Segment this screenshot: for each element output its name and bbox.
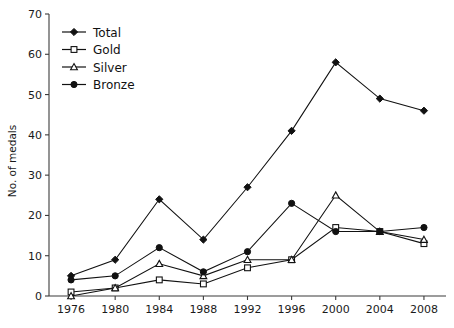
data-point-marker-open-square — [71, 47, 77, 53]
data-point-marker-filled-circle — [68, 277, 74, 283]
y-tick-label: 20 — [28, 209, 42, 222]
data-point-marker-filled-circle — [156, 245, 162, 251]
data-point-marker-filled-circle — [71, 81, 77, 87]
y-tick-label: 0 — [35, 290, 42, 303]
chart-legend: TotalGoldSilverBronze — [62, 26, 135, 93]
legend-item-silver[interactable]: Silver — [62, 61, 127, 75]
data-point-marker-open-triangle — [156, 260, 163, 266]
y-tick-label: 10 — [28, 250, 42, 263]
x-tick-label: 2008 — [410, 303, 438, 316]
series-line-total — [71, 62, 424, 276]
data-point-marker-open-square — [245, 265, 251, 271]
data-point-marker-open-square — [200, 281, 206, 287]
data-series-group — [67, 59, 427, 299]
x-axis: 197619801984198819921996200020042008 — [49, 296, 446, 316]
data-point-marker-filled-circle — [200, 269, 206, 275]
x-tick-label: 2004 — [366, 303, 394, 316]
y-tick-label: 60 — [28, 48, 42, 61]
y-axis: 010203040506070 — [28, 8, 49, 303]
chart-canvas: 010203040506070 197619801984198819921996… — [0, 0, 454, 328]
x-tick-label: 2000 — [322, 303, 350, 316]
x-tick-label: 1988 — [189, 303, 217, 316]
legend-label: Silver — [93, 61, 127, 75]
x-tick-label: 1980 — [101, 303, 129, 316]
data-point-marker-filled-circle — [289, 200, 295, 206]
legend-item-bronze[interactable]: Bronze — [62, 78, 135, 92]
data-point-marker-filled-circle — [333, 228, 339, 234]
x-tick-label: 1996 — [278, 303, 306, 316]
data-point-marker-filled-diamond — [420, 107, 427, 114]
legend-item-gold[interactable]: Gold — [62, 43, 121, 57]
legend-item-total[interactable]: Total — [62, 26, 121, 40]
data-point-marker-filled-circle — [112, 273, 118, 279]
legend-label: Gold — [93, 43, 121, 57]
medal-count-line-chart: 010203040506070 197619801984198819921996… — [0, 0, 454, 328]
x-tick-label: 1984 — [145, 303, 173, 316]
series-line-silver — [71, 195, 424, 296]
y-axis-title: No. of medals — [6, 125, 18, 197]
data-point-marker-filled-diamond — [70, 28, 77, 35]
series-silver — [68, 192, 428, 299]
data-point-marker-filled-diamond — [112, 256, 119, 263]
data-point-marker-filled-circle — [421, 224, 427, 230]
y-tick-label: 40 — [28, 129, 42, 142]
data-point-marker-filled-circle — [244, 249, 250, 255]
y-tick-label: 50 — [28, 89, 42, 102]
data-point-marker-open-square — [156, 277, 162, 283]
data-point-marker-filled-circle — [377, 228, 383, 234]
x-tick-label: 1976 — [57, 303, 85, 316]
legend-label: Bronze — [93, 78, 135, 92]
y-tick-label: 70 — [28, 8, 42, 21]
data-point-marker-open-triangle — [332, 192, 339, 198]
x-tick-label: 1992 — [234, 303, 262, 316]
y-tick-label: 30 — [28, 169, 42, 182]
legend-label: Total — [92, 26, 121, 40]
